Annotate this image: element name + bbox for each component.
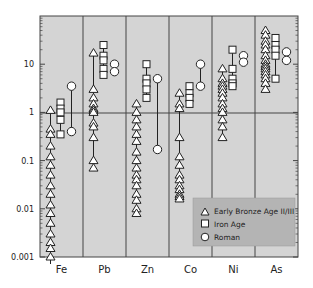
y-tick-label: 0.1 bbox=[21, 157, 34, 166]
y-tick-label: 0.01 bbox=[16, 205, 34, 214]
x-tick-ni: Ni bbox=[228, 264, 238, 275]
circle-marker bbox=[196, 82, 204, 90]
square-marker bbox=[100, 42, 107, 49]
square-marker bbox=[272, 75, 279, 82]
x-tick-fe: Fe bbox=[56, 264, 67, 275]
square-marker bbox=[143, 86, 150, 93]
chart: 0.0010.010.1110 FePbZnCoNiAs Early Bronz… bbox=[0, 0, 313, 288]
circle-marker bbox=[282, 48, 290, 56]
x-tick-zn: Zn bbox=[141, 264, 154, 275]
square-marker bbox=[57, 131, 64, 138]
x-tick-pb: Pb bbox=[98, 264, 110, 275]
y-tick-label: 10 bbox=[24, 60, 34, 69]
circle-marker bbox=[153, 145, 161, 153]
square-marker bbox=[229, 83, 236, 90]
circle-marker bbox=[110, 67, 118, 75]
circle-marker bbox=[67, 127, 75, 135]
square-marker bbox=[100, 71, 107, 78]
square-marker bbox=[57, 116, 64, 123]
legend-label-iron-age: Iron Age bbox=[214, 220, 246, 229]
square-marker bbox=[229, 65, 236, 72]
square-marker bbox=[186, 100, 193, 107]
legend: Early Bronze Age II/III Iron Age Roman bbox=[193, 198, 295, 246]
square-marker bbox=[143, 61, 150, 68]
y-tick-label: 0.001 bbox=[11, 253, 34, 262]
circle-marker bbox=[239, 58, 247, 66]
square-marker bbox=[57, 109, 64, 116]
square-marker bbox=[186, 83, 193, 90]
square-marker bbox=[272, 34, 279, 41]
x-tick-as: As bbox=[270, 264, 282, 275]
circle-marker bbox=[282, 56, 290, 64]
square-marker bbox=[229, 46, 236, 53]
square-marker bbox=[143, 94, 150, 101]
y-tick-label: 1 bbox=[29, 108, 34, 117]
circle-marker bbox=[67, 82, 75, 90]
legend-label-roman: Roman bbox=[214, 233, 240, 242]
circle-marker bbox=[153, 75, 161, 83]
square-marker bbox=[272, 52, 279, 59]
x-tick-co: Co bbox=[184, 264, 197, 275]
square-marker bbox=[100, 57, 107, 64]
legend-label-ebа: Early Bronze Age II/III bbox=[214, 207, 294, 216]
square-icon bbox=[202, 220, 209, 227]
circle-marker bbox=[196, 60, 204, 68]
circle-icon bbox=[201, 233, 209, 241]
